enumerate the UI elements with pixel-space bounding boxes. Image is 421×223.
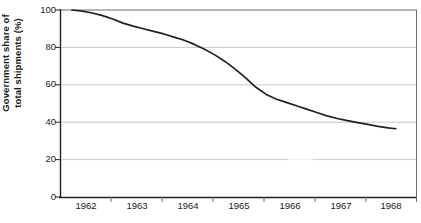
x-tick-label-1967: 1967 (315, 200, 367, 211)
y-axis-ticks (55, 10, 60, 197)
gridlines (60, 47, 417, 159)
axis-frame (59, 9, 417, 198)
x-tick-label-1963: 1963 (111, 200, 163, 211)
x-tick-label-1964: 1964 (162, 200, 214, 211)
line-chart: Government share of total shipments (%) … (0, 0, 421, 223)
x-tick-label-1965: 1965 (213, 200, 265, 211)
plot-area (0, 0, 421, 223)
x-tick-label-1968: 1968 (365, 200, 417, 211)
x-axis-tick-labels: 1962 1963 1964 1965 1966 1967 1968 (0, 200, 421, 220)
data-series-line (72, 10, 396, 129)
x-tick-label-1962: 1962 (60, 200, 112, 211)
x-tick-label-1966: 1966 (264, 200, 316, 211)
